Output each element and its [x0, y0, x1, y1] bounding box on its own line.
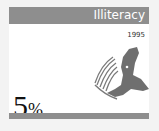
- illiteracy-card: Illiteracy 1995 5%: [9, 7, 149, 119]
- card-footer-bar: [9, 113, 149, 119]
- reader-with-book-icon: [93, 45, 155, 109]
- card-header: Illiteracy: [9, 7, 149, 24]
- card-title: Illiteracy: [93, 8, 145, 23]
- year-label: 1995: [127, 31, 145, 39]
